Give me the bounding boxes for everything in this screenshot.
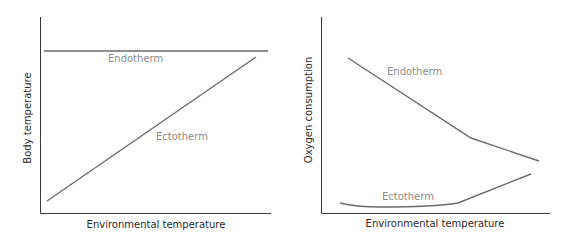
left-axes xyxy=(41,17,272,214)
chart-oxygen-consumption: Endotherm Ectotherm Environmental temper… xyxy=(303,17,550,229)
chart-body-temperature: Endotherm Ectotherm Environmental temper… xyxy=(22,17,271,230)
left-x-axis-label: Environmental temperature xyxy=(87,219,226,230)
left-ectotherm-label: Ectotherm xyxy=(156,131,208,142)
left-ectotherm-line xyxy=(47,57,256,201)
right-x-axis-label: Environmental temperature xyxy=(366,218,505,229)
right-ectotherm-label: Ectotherm xyxy=(382,191,434,202)
right-endotherm-label: Endotherm xyxy=(387,66,442,77)
left-endotherm-label: Endotherm xyxy=(108,53,163,64)
left-y-axis-label: Body temperature xyxy=(22,72,33,163)
right-endotherm-line xyxy=(348,58,539,161)
figure: Endotherm Ectotherm Environmental temper… xyxy=(0,0,573,238)
right-ectotherm-line xyxy=(340,174,531,207)
right-y-axis-label: Oxygen consumption xyxy=(303,57,314,163)
